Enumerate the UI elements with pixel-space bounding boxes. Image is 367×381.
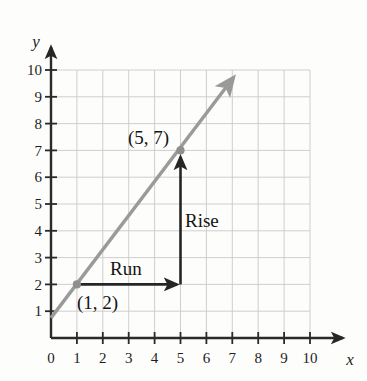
- graph-figure: 0 1 2 3 4 5 6 7 8 9 10 1 2 3 4 5 6 7 8 9…: [0, 0, 367, 381]
- data-point-1-2[interactable]: [73, 280, 81, 288]
- x-tick-label: 2: [99, 350, 107, 366]
- y-tick-label: 3: [35, 250, 43, 266]
- x-tick-label: 9: [280, 350, 288, 366]
- figure-background: [0, 0, 367, 381]
- x-tick-label: 4: [151, 350, 159, 366]
- y-tick-label: 8: [35, 116, 43, 132]
- y-axis-label: y: [30, 32, 40, 51]
- data-point-5-7[interactable]: [176, 146, 184, 154]
- x-axis-label: x: [345, 350, 354, 369]
- y-tick-label: 6: [35, 169, 43, 185]
- coordinate-plane-svg: 0 1 2 3 4 5 6 7 8 9 10 1 2 3 4 5 6 7 8 9…: [0, 0, 367, 381]
- rise-label: Rise: [185, 210, 219, 231]
- y-tick-label: 4: [35, 223, 43, 239]
- x-tick-label: 7: [229, 350, 237, 366]
- run-label: Run: [110, 258, 142, 279]
- x-tick-label: 0: [47, 350, 55, 366]
- x-tick-label: 8: [254, 350, 262, 366]
- y-tick-label: 7: [35, 143, 43, 159]
- x-tick-label: 3: [125, 350, 133, 366]
- x-tick-label: 5: [177, 350, 185, 366]
- x-tick-label: 1: [73, 350, 81, 366]
- y-tick-label: 5: [35, 196, 43, 212]
- x-tick-label: 10: [303, 350, 318, 366]
- point-label-1-2: (1, 2): [77, 292, 118, 314]
- y-tick-label: 9: [35, 89, 43, 105]
- x-tick-label: 6: [203, 350, 211, 366]
- point-label-5-7: (5, 7): [128, 127, 169, 149]
- y-tick-label: 2: [35, 277, 43, 293]
- y-tick-label: 1: [35, 303, 43, 319]
- y-tick-label: 10: [27, 62, 42, 78]
